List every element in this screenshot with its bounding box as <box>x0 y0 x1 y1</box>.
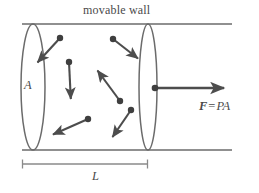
particle-3 <box>110 36 138 59</box>
particle-6 <box>113 107 135 137</box>
particle-2 <box>66 59 72 99</box>
movable-wall-label: movable wall <box>83 4 150 16</box>
physics-diagram-cylinder-gas: movable wall A L F=PA <box>0 0 259 193</box>
length-label: L <box>92 170 99 183</box>
gas-particles-group <box>38 35 139 137</box>
diagram-canvas <box>0 0 259 193</box>
force-label: F=PA <box>199 100 230 113</box>
force-expression: PA <box>216 99 230 113</box>
area-label: A <box>24 79 32 92</box>
particle-4 <box>98 71 124 105</box>
force-arrow <box>152 85 224 92</box>
particle-5 <box>53 116 91 135</box>
length-dimension-bar <box>22 160 148 169</box>
